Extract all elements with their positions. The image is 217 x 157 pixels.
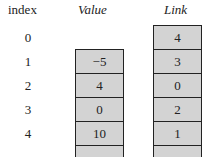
link-cell: 3: [153, 49, 202, 74]
value-cell: −5: [75, 49, 124, 74]
index-label: 1: [18, 54, 38, 70]
value-cell: 10: [75, 121, 124, 146]
link-cell: 1: [153, 121, 202, 146]
value-cell: 4: [75, 73, 124, 98]
link-cell: 4: [153, 25, 202, 50]
index-label: 4: [18, 126, 38, 142]
index-header: index: [8, 2, 37, 18]
index-label: 3: [18, 102, 38, 118]
value-header: Value: [78, 2, 107, 18]
index-label: 2: [18, 78, 38, 94]
link-header: Link: [164, 2, 187, 18]
link-cell: 0: [153, 73, 202, 98]
link-cell: 2: [153, 97, 202, 122]
index-label: 0: [18, 30, 38, 46]
value-cell: [75, 145, 124, 157]
link-cell: [153, 145, 202, 157]
value-cell: 0: [75, 97, 124, 122]
